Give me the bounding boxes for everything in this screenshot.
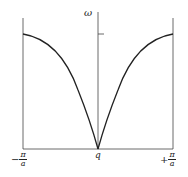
fraction-denominator: a xyxy=(21,160,26,168)
q-label: q xyxy=(95,151,101,160)
left-boundary-label: −πa xyxy=(11,151,27,168)
pi-over-a-fraction: πa xyxy=(19,151,26,168)
right-boundary-label: +πa xyxy=(160,151,176,168)
dispersion-curve-left xyxy=(23,34,98,149)
fraction-denominator: a xyxy=(170,160,175,168)
minus-sign: − xyxy=(11,154,19,165)
omega-label: ω xyxy=(84,8,92,18)
plus-sign: + xyxy=(160,154,168,165)
dispersion-curve-right xyxy=(98,34,173,149)
pi-over-a-fraction: πa xyxy=(168,151,175,168)
dispersion-diagram: ω q −πa +πa xyxy=(0,0,188,177)
